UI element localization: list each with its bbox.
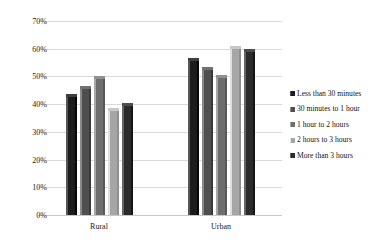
bar-shadow-edge — [211, 67, 213, 215]
bar — [188, 58, 199, 215]
bar-top-cap — [66, 94, 77, 97]
legend-swatch-highlight — [290, 138, 291, 143]
bar — [230, 46, 241, 215]
legend-swatch-icon — [290, 153, 295, 158]
bar — [80, 86, 91, 215]
bar-group — [160, 21, 282, 215]
bar — [244, 49, 255, 215]
bar-top-cap — [216, 75, 227, 78]
legend-swatch-icon — [290, 107, 295, 112]
bar-highlight-edge — [80, 86, 82, 215]
bar — [122, 103, 133, 215]
bar-top-cap — [230, 46, 241, 49]
bar-top-cap — [122, 103, 133, 106]
bar-highlight-edge — [122, 103, 124, 215]
legend-swatch-highlight — [290, 122, 291, 127]
bar-highlight-edge — [216, 75, 218, 215]
legend-swatch-highlight — [290, 91, 291, 96]
bar-shadow-edge — [89, 86, 91, 215]
bar-shadow-edge — [239, 46, 241, 215]
bar-shadow-edge — [103, 76, 105, 215]
legend-swatch-icon — [290, 91, 295, 96]
legend-item[interactable]: More than 3 hours — [290, 148, 388, 164]
bar-shadow-edge — [131, 103, 133, 215]
bar-top-cap — [244, 49, 255, 52]
gridline — [38, 215, 282, 216]
legend-swatch-icon — [290, 138, 295, 143]
bar-shadow-edge — [117, 108, 119, 215]
bar-highlight-edge — [230, 46, 232, 215]
legend-swatch-highlight — [290, 153, 291, 158]
legend-item-label: 1 hour to 2 hours — [297, 121, 349, 129]
bar-chart: 0%10%20%30%40%50%60%70% RuralUrban Less … — [0, 0, 390, 243]
legend-item[interactable]: Less than 30 minutes — [290, 86, 388, 102]
bar-shadow-edge — [253, 49, 255, 215]
bar-shadow-edge — [75, 94, 77, 215]
bar-shadow-edge — [197, 58, 199, 215]
bar-top-cap — [108, 108, 119, 111]
legend-swatch-highlight — [290, 107, 291, 112]
bar-highlight-edge — [188, 58, 190, 215]
bar — [216, 75, 227, 215]
legend-item[interactable]: 1 hour to 2 hours — [290, 117, 388, 133]
bar-top-cap — [188, 58, 199, 61]
legend-item[interactable]: 30 minutes to 1 hour — [290, 102, 388, 118]
bar-shadow-edge — [225, 75, 227, 215]
bar — [108, 108, 119, 215]
bar-highlight-edge — [244, 49, 246, 215]
legend-item-label: 30 minutes to 1 hour — [297, 105, 360, 113]
bar — [202, 67, 213, 215]
x-axis-category-label: Urban — [160, 222, 282, 231]
bar-highlight-edge — [94, 76, 96, 215]
bar-top-cap — [80, 86, 91, 89]
legend-item-label: Less than 30 minutes — [297, 90, 361, 98]
bar-highlight-edge — [108, 108, 110, 215]
bar-highlight-edge — [66, 94, 68, 215]
bar-highlight-edge — [202, 67, 204, 215]
bar — [66, 94, 77, 215]
legend-item[interactable]: 2 hours to 3 hours — [290, 133, 388, 149]
bar-groups — [38, 21, 282, 215]
bar-top-cap — [94, 76, 105, 79]
bar — [94, 76, 105, 215]
bar-group — [38, 21, 160, 215]
legend-item-label: 2 hours to 3 hours — [297, 136, 352, 144]
x-axis-category-label: Rural — [38, 222, 160, 231]
bar-top-cap — [202, 67, 213, 70]
legend-swatch-icon — [290, 122, 295, 127]
legend-item-label: More than 3 hours — [297, 152, 353, 160]
chart-legend: Less than 30 minutes30 minutes to 1 hour… — [290, 86, 388, 164]
